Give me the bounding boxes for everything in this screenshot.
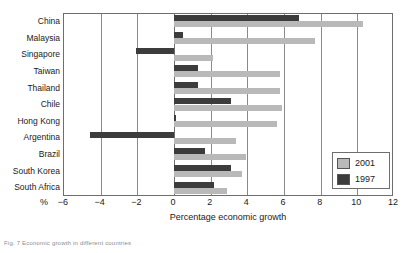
bar-2001-argentina — [174, 138, 236, 144]
legend-item-2001: 2001 — [337, 156, 375, 170]
x-axis-title: Percentage economic growth — [63, 212, 393, 222]
bar-row — [64, 31, 392, 48]
category-label-taiwan: Taiwan — [0, 63, 60, 80]
bar-1997-argentina — [90, 132, 174, 138]
category-label-argentina: Argentina — [0, 129, 60, 146]
economic-growth-bar-chart: ChinaMalaysiaSingaporeTaiwanThailandChil… — [0, 0, 408, 253]
bar-2001-thailand — [174, 88, 280, 94]
bar-2001-chile — [174, 105, 282, 111]
x-tick-label-6: 6 — [280, 197, 285, 207]
bar-2001-china — [174, 21, 363, 27]
bar-2001-south-africa — [174, 188, 227, 194]
bar-row — [64, 47, 392, 64]
x-tick-label--4: −4 — [95, 197, 105, 207]
category-label-singapore: Singapore — [0, 46, 60, 63]
bar-1997-hong-kong — [174, 115, 176, 121]
bar-row — [64, 81, 392, 98]
x-tick-label-10: 10 — [351, 197, 361, 207]
chart-legend: 2001 1997 — [332, 152, 390, 189]
x-tick-label-0: 0 — [170, 197, 175, 207]
legend-item-1997: 1997 — [337, 172, 375, 186]
category-label-china: China — [0, 13, 60, 30]
x-axis: % −6−4−2024681012 — [0, 197, 408, 211]
legend-label-1997: 1997 — [355, 174, 375, 184]
bar-row — [64, 114, 392, 131]
category-axis-labels: ChinaMalaysiaSingaporeTaiwanThailandChil… — [0, 13, 60, 196]
bar-2001-singapore — [174, 55, 213, 61]
bar-1997-south-korea — [174, 165, 231, 171]
x-tick-label-8: 8 — [317, 197, 322, 207]
x-tick-label-12: 12 — [388, 197, 398, 207]
bar-1997-china — [174, 15, 299, 21]
category-label-south-korea: South Korea — [0, 163, 60, 180]
legend-label-2001: 2001 — [355, 158, 375, 168]
figure-caption: Fig. 7 Economic growth in different coun… — [4, 240, 131, 246]
bar-2001-malaysia — [174, 38, 315, 44]
bar-1997-brazil — [174, 148, 205, 154]
category-label-hong-kong: Hong Kong — [0, 113, 60, 130]
x-tick-label--2: −2 — [131, 197, 141, 207]
bar-row — [64, 14, 392, 31]
bar-1997-malaysia — [174, 32, 183, 38]
bar-row — [64, 64, 392, 81]
bar-1997-chile — [174, 98, 231, 104]
category-label-malaysia: Malaysia — [0, 30, 60, 47]
x-tick-label-4: 4 — [244, 197, 249, 207]
bar-1997-singapore — [136, 48, 175, 54]
bar-1997-south-africa — [174, 182, 214, 188]
bar-2001-south-korea — [174, 171, 242, 177]
bar-row — [64, 97, 392, 114]
legend-swatch-1997 — [337, 174, 350, 185]
bar-2001-hong-kong — [174, 121, 277, 127]
category-label-brazil: Brazil — [0, 146, 60, 163]
legend-swatch-2001 — [337, 158, 350, 169]
x-axis-unit-symbol: % — [40, 197, 48, 207]
bar-row — [64, 130, 392, 147]
bar-1997-taiwan — [174, 65, 198, 71]
bar-2001-taiwan — [174, 71, 280, 77]
category-label-south-africa: South Africa — [0, 179, 60, 196]
bar-1997-thailand — [174, 82, 198, 88]
x-tick-label--6: −6 — [58, 197, 68, 207]
category-label-chile: Chile — [0, 96, 60, 113]
x-tick-label-2: 2 — [207, 197, 212, 207]
category-label-thailand: Thailand — [0, 80, 60, 97]
bar-2001-brazil — [174, 154, 246, 160]
